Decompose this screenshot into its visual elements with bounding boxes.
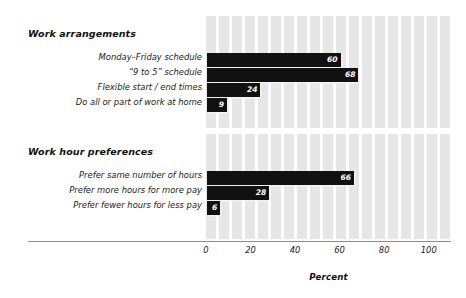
bar-value-label: 9: [219, 99, 224, 111]
bar: 68: [207, 68, 358, 82]
bars-work-hour-preferences: 66 28 6: [206, 134, 451, 239]
bar-row: 68: [206, 68, 451, 82]
bar: 66: [207, 171, 354, 185]
category-label: Prefer same number of hours: [79, 170, 202, 181]
bar: 9: [207, 98, 227, 112]
x-axis-tick-label: 60: [334, 245, 345, 255]
bar-value-label: 60: [327, 54, 338, 66]
x-axis-tick-labels: 020406080100: [206, 245, 451, 259]
category-label: “9 to 5” schedule: [129, 67, 202, 78]
bar-value-label: 6: [212, 202, 217, 214]
bar: 24: [207, 83, 260, 97]
bar-row: 6: [206, 201, 451, 215]
x-axis-line: [28, 241, 451, 242]
category-label: Do all or part of work at home: [76, 97, 202, 108]
bar-row: 24: [206, 83, 451, 97]
category-label: Flexible start / end times: [98, 82, 202, 93]
category-label: Prefer fewer hours for less pay: [73, 200, 202, 211]
bar: 28: [207, 186, 269, 200]
bar-value-label: 68: [345, 69, 356, 81]
bar-value-label: 24: [247, 84, 258, 96]
x-axis-title: Percent: [206, 272, 451, 282]
bar-value-label: 28: [256, 187, 267, 199]
category-label: Monday–Friday schedule: [99, 52, 202, 63]
x-axis-tick-label: 80: [379, 245, 390, 255]
x-axis-tick-label: 0: [203, 245, 208, 255]
x-axis-tick-label: 20: [245, 245, 256, 255]
group-heading-work-arrangements: Work arrangements: [28, 28, 136, 39]
x-axis-tick-label: 40: [290, 245, 301, 255]
bar-row: 9: [206, 98, 451, 112]
bar-row: 60: [206, 53, 451, 67]
bars-work-arrangements: 60 68 24 9: [206, 16, 451, 128]
chart-figure: Work arrangements Monday–Friday schedule…: [0, 0, 466, 298]
group-heading-work-hour-preferences: Work hour preferences: [28, 146, 153, 157]
bar: 6: [207, 201, 220, 215]
category-label: Prefer more hours for more pay: [69, 185, 202, 196]
bar: 60: [207, 53, 341, 67]
x-axis-tick-label: 100: [421, 245, 437, 255]
bar-row: 66: [206, 171, 451, 185]
bar-row: 28: [206, 186, 451, 200]
bar-value-label: 66: [340, 172, 351, 184]
